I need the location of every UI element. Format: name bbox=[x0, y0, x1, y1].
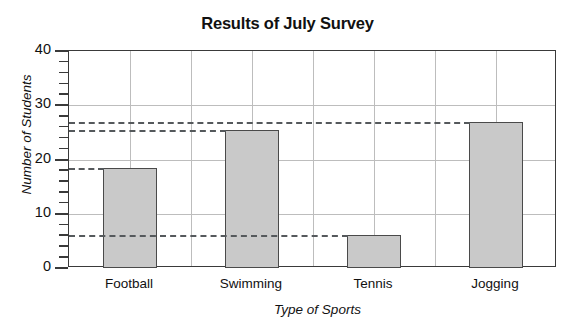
reference-line-football bbox=[69, 168, 104, 170]
y-tick-minor bbox=[59, 256, 68, 258]
y-tick-minor bbox=[59, 115, 68, 117]
y-tick-minor bbox=[59, 61, 68, 63]
y-tick-minor bbox=[59, 202, 68, 204]
bar-jogging bbox=[469, 122, 523, 268]
y-tick-major bbox=[55, 159, 68, 161]
y-axis-tick-label: 0 bbox=[15, 258, 51, 274]
y-tick-minor bbox=[59, 169, 68, 171]
y-axis-tick-label: 30 bbox=[15, 95, 51, 111]
y-axis-tick-label: 40 bbox=[15, 41, 51, 57]
y-tick-minor bbox=[59, 224, 68, 226]
plot-area bbox=[68, 50, 556, 267]
gridline-vertical bbox=[374, 51, 375, 266]
reference-line-jogging bbox=[69, 122, 470, 124]
gridline-vertical bbox=[313, 51, 314, 266]
y-axis-tick-label: 10 bbox=[15, 204, 51, 220]
y-tick-minor bbox=[59, 245, 68, 247]
chart-title: Results of July Survey bbox=[0, 14, 575, 33]
bar-chart-figure: Results of July Survey Number of Student… bbox=[0, 0, 575, 334]
y-tick-major bbox=[55, 104, 68, 106]
y-tick-major bbox=[55, 267, 68, 269]
y-axis-tick-label: 20 bbox=[15, 150, 51, 166]
bar-swimming bbox=[225, 130, 279, 268]
y-tick-minor bbox=[59, 191, 68, 193]
gridline-vertical bbox=[435, 51, 436, 266]
x-axis-label-football: Football bbox=[68, 276, 190, 291]
bar-football bbox=[103, 168, 157, 268]
y-tick-minor bbox=[59, 148, 68, 150]
y-tick-minor bbox=[59, 72, 68, 74]
gridline-horizontal bbox=[69, 105, 555, 106]
x-axis-label-jogging: Jogging bbox=[434, 276, 556, 291]
x-axis-label-tennis: Tennis bbox=[312, 276, 434, 291]
y-tick-minor bbox=[59, 126, 68, 128]
reference-line-swimming bbox=[69, 130, 226, 132]
x-axis-title: Type of Sports bbox=[60, 302, 575, 317]
y-tick-minor bbox=[59, 137, 68, 139]
y-tick-minor bbox=[59, 234, 68, 236]
y-tick-major bbox=[55, 50, 68, 52]
gridline-vertical bbox=[191, 51, 192, 266]
y-tick-minor bbox=[59, 180, 68, 182]
reference-line-tennis bbox=[69, 235, 348, 237]
y-tick-minor bbox=[59, 93, 68, 95]
y-tick-minor bbox=[59, 83, 68, 85]
x-axis-label-swimming: Swimming bbox=[190, 276, 312, 291]
y-tick-major bbox=[55, 213, 68, 215]
bar-tennis bbox=[347, 235, 401, 268]
